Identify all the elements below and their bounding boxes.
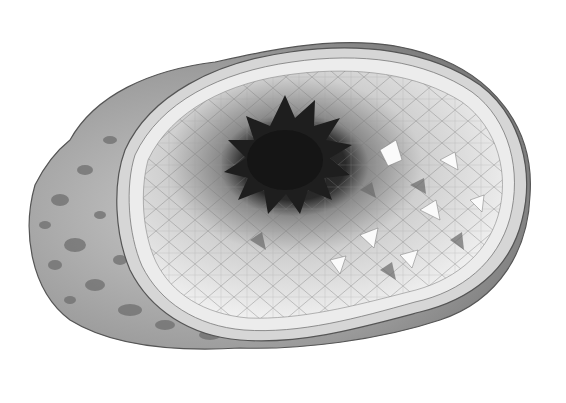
geode-illustration <box>0 0 566 403</box>
geode-drawing <box>0 0 566 403</box>
cavity-core <box>247 130 323 190</box>
